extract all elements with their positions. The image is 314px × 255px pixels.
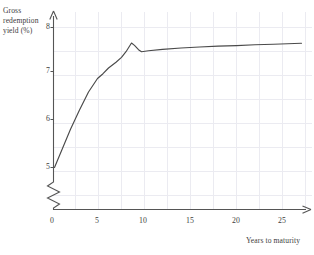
yield-curve-line [55,43,302,168]
x-axis [54,206,312,213]
yield-curve-chart: Gross redemption yield (%) Years to matu… [0,0,314,255]
horizontal-gridlines [53,28,312,196]
vertical-gridlines [76,12,306,209]
y-axis [50,11,57,180]
chart-canvas [0,0,314,255]
